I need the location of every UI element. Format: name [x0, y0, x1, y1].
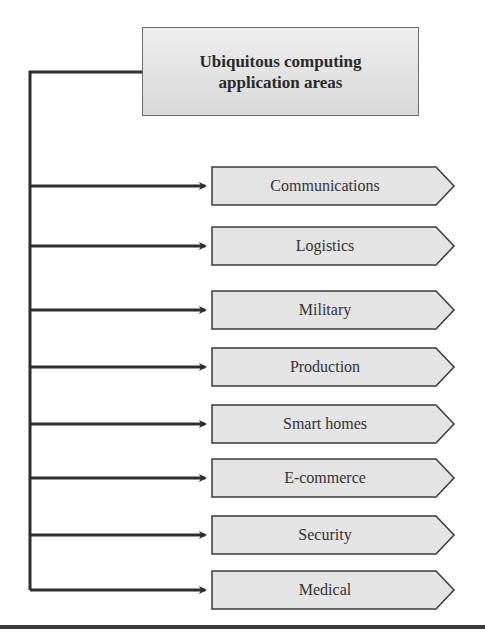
area-node-smart-homes: Smart homes — [211, 404, 455, 444]
area-label: Production — [211, 347, 439, 387]
root-node-title: Ubiquitous computing application areas — [199, 51, 361, 93]
area-label: Smart homes — [211, 404, 439, 444]
area-node-military: Military — [211, 290, 455, 330]
area-label: E-commerce — [211, 458, 439, 498]
application-areas-diagram: Ubiquitous computing application areas C… — [0, 0, 485, 644]
area-node-medical: Medical — [211, 570, 455, 610]
area-label: Communications — [211, 166, 439, 206]
area-label: Military — [211, 290, 439, 330]
area-node-communications: Communications — [211, 166, 455, 206]
root-node-box: Ubiquitous computing application areas — [142, 27, 419, 116]
area-label: Medical — [211, 570, 439, 610]
area-node-production: Production — [211, 347, 455, 387]
area-node-e-commerce: E-commerce — [211, 458, 455, 498]
area-label: Logistics — [211, 226, 439, 266]
area-node-logistics: Logistics — [211, 226, 455, 266]
area-node-security: Security — [211, 515, 455, 555]
area-label: Security — [211, 515, 439, 555]
bottom-divider — [0, 625, 485, 629]
